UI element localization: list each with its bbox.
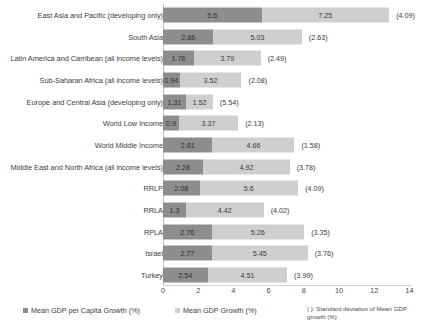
bar-group: 1.763.79 (163, 51, 261, 66)
bar-group: 2.814.66 (163, 137, 294, 152)
category-label: Europe and Central Asia (developing only… (5, 97, 163, 106)
bar-value-label: 2.86 (181, 32, 195, 41)
bar-value-label: 2.08 (174, 184, 188, 193)
std-dev-annotation: (2.63) (309, 32, 328, 41)
x-axis-ticks: 02468101214 (0, 286, 424, 298)
bar-segment-series1: 2.28 (163, 159, 203, 174)
bar-segment-series2: 4.51 (208, 268, 287, 283)
bar-value-label: 2.54 (178, 271, 192, 280)
category-label: RRLP (5, 184, 163, 193)
bar-segment-series1: 2.81 (163, 137, 212, 152)
category-label: Latin America and Carribean (all income … (5, 54, 163, 63)
legend-label-series1: Mean GDP per Capita Growth (%) (31, 306, 140, 315)
bar-segment-series2: 5.26 (212, 224, 305, 239)
bar-value-label: 5.6 (244, 184, 254, 193)
x-tick-label: 14 (405, 286, 413, 295)
chart-legend: Mean GDP per Capita Growth (%) Mean GDP … (0, 305, 424, 327)
bar-group: 5.67.25 (163, 7, 389, 22)
bar-value-label: 5.26 (251, 227, 265, 236)
bar-segment-series2: 4.42 (186, 203, 264, 218)
bar-row: RPLA2.765.26(3.35) (0, 221, 424, 243)
bar-group: 2.765.26 (163, 224, 304, 239)
bar-segment-series2: 3.79 (194, 51, 261, 66)
x-tick-label: 0 (161, 286, 165, 295)
bar-group: 2.085.6 (163, 181, 298, 196)
bar-group: 2.865.03 (163, 29, 302, 44)
x-tick-label: 2 (196, 286, 200, 295)
bar-row: South Asia2.865.03(2.63) (0, 26, 424, 48)
category-label: Turkey (5, 271, 163, 280)
category-label: East Asia and Pacific (developing only) (5, 10, 163, 19)
bar-row: Turkey2.544.51(3.99) (0, 264, 424, 286)
category-label: World Middle Income (5, 140, 163, 149)
std-dev-annotation: (5.54) (220, 97, 239, 106)
bar-row: World Low Income0.93.37(2.13) (0, 112, 424, 134)
bar-group: 0.93.37 (163, 116, 238, 131)
std-dev-annotation: (4.02) (271, 206, 290, 215)
legend-swatch-icon (23, 308, 28, 313)
bar-row: RRLP2.085.6(4.09) (0, 178, 424, 200)
bar-rows: East Asia and Pacific (developing only)5… (0, 4, 424, 286)
bar-value-label: 1.3 (169, 206, 179, 215)
bar-row: World Middle Income2.814.66(1.58) (0, 134, 424, 156)
bar-row: RRLA1.34.42(4.02) (0, 199, 424, 221)
bar-segment-series2: 4.92 (203, 159, 290, 174)
bar-row: Israel2.775.45(3.76) (0, 243, 424, 265)
plot-area: East Asia and Pacific (developing only)5… (0, 4, 424, 286)
bar-value-label: 3.79 (220, 54, 234, 63)
bar-group: 1.34.42 (163, 203, 264, 218)
std-dev-annotation: (3.99) (294, 271, 313, 280)
category-label: Middle East and North Africa (all income… (5, 162, 163, 171)
bar-segment-series1: 2.76 (163, 224, 212, 239)
bar-value-label: 2.28 (176, 162, 190, 171)
bar-row: Sub-Saharan Africa (all income levels)0.… (0, 69, 424, 91)
bar-value-label: 1.52 (192, 97, 206, 106)
legend-note: ( ): Standard deviation of Mean GDP grow… (307, 305, 419, 320)
std-dev-annotation: (3.78) (297, 162, 316, 171)
bar-segment-series2: 5.03 (213, 29, 302, 44)
bar-segment-series2: 1.52 (186, 94, 213, 109)
bar-value-label: 2.76 (180, 227, 194, 236)
bar-group: 2.284.92 (163, 159, 290, 174)
bar-value-label: 3.37 (201, 119, 215, 128)
bar-segment-series1: 5.6 (163, 7, 262, 22)
bar-segment-series1: 1.3 (163, 203, 186, 218)
bar-value-label: 2.77 (180, 249, 194, 258)
bar-value-label: 1.76 (171, 54, 185, 63)
bar-segment-series1: 1.31 (163, 94, 186, 109)
x-tick-label: 10 (335, 286, 343, 295)
bar-value-label: 1.31 (168, 97, 182, 106)
std-dev-annotation: (2.13) (245, 119, 264, 128)
std-dev-annotation: (3.76) (315, 249, 334, 258)
bar-row: Europe and Central Asia (developing only… (0, 91, 424, 113)
legend-swatch-icon (175, 308, 180, 313)
bar-group: 0.943.52 (163, 72, 241, 87)
category-label: RRLA (5, 206, 163, 215)
bar-segment-series2: 7.25 (262, 7, 390, 22)
std-dev-annotation: (4.09) (305, 184, 324, 193)
bar-segment-series2: 4.66 (212, 137, 294, 152)
bar-segment-series2: 3.52 (180, 72, 242, 87)
bar-value-label: 4.92 (239, 162, 253, 171)
bar-group: 2.775.45 (163, 246, 308, 261)
std-dev-annotation: (2.08) (248, 75, 267, 84)
bar-value-label: 0.9 (166, 119, 176, 128)
bar-row: Latin America and Carribean (all income … (0, 47, 424, 69)
legend-item-series2: Mean GDP Growth (%) (175, 306, 257, 315)
bar-value-label: 5.45 (253, 249, 267, 258)
bar-segment-series1: 2.77 (163, 246, 212, 261)
x-tick-label: 6 (267, 286, 271, 295)
category-label: South Asia (5, 32, 163, 41)
bar-segment-series1: 2.08 (163, 181, 200, 196)
bar-segment-series2: 5.6 (200, 181, 299, 196)
stacked-bar-chart: East Asia and Pacific (developing only)5… (0, 0, 424, 327)
std-dev-annotation: (3.35) (311, 227, 330, 236)
std-dev-annotation: (4.09) (396, 10, 415, 19)
bar-segment-series1: 0.94 (163, 72, 180, 87)
bar-value-label: 0.94 (164, 75, 178, 84)
bar-value-label: 5.03 (251, 32, 265, 41)
bar-segment-series1: 0.9 (163, 116, 179, 131)
category-label: Sub-Saharan Africa (all income levels) (5, 75, 163, 84)
legend-label-series2: Mean GDP Growth (%) (183, 306, 257, 315)
bar-row: Middle East and North Africa (all income… (0, 156, 424, 178)
